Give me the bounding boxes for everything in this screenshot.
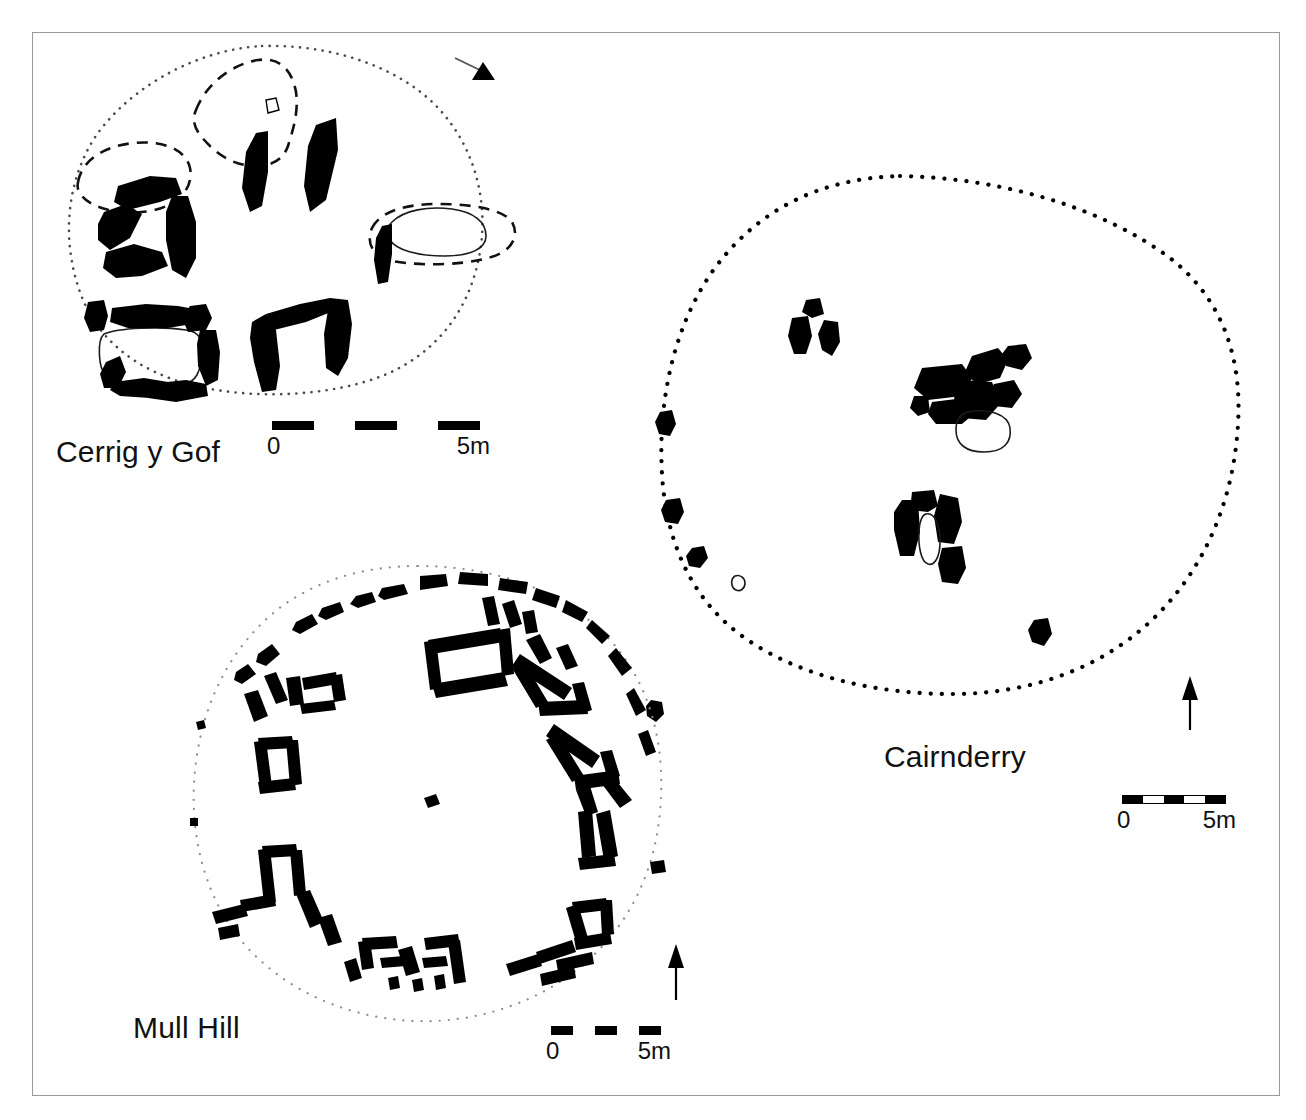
plan-mull-hill [190, 566, 684, 1021]
scalebar-min-label: 0 [1117, 806, 1130, 834]
mull-c5-slab6 [422, 956, 448, 968]
plan-cairnderry [646, 176, 1239, 730]
scalebar-segment [272, 421, 314, 430]
scalebar-max-label: 5m [1203, 806, 1236, 834]
orthostat-b1 [304, 118, 338, 212]
mull-c3-entry1 [602, 778, 632, 808]
scalebar-cerrig-y-gof: 0 5m [272, 421, 480, 458]
scalebar-bar [551, 1026, 661, 1035]
figure-root: Cerrig y Gof Cairnderry Mull Hill 0 5m 0… [0, 0, 1306, 1120]
mull-c1-slab4 [498, 628, 514, 676]
capstone-cairnderry-s [919, 514, 940, 565]
orthostat-nw2 [788, 316, 812, 354]
kerb-arc-mull-e1 [650, 860, 666, 874]
scalebar-cairnderry: 0 5m [1122, 795, 1226, 832]
mull-c7-entry2 [264, 672, 288, 704]
scalebar-segment [355, 421, 397, 430]
cairn-edge-cairnderry [661, 176, 1238, 694]
mull-c7-entry6 [300, 700, 336, 714]
mull-c4-slab3 [600, 900, 614, 936]
kerb-stone-3 [686, 546, 708, 568]
kerb-arc-mull-n5 [498, 578, 528, 594]
orthostat-nw1 [802, 298, 824, 318]
mull-c5-slab8 [388, 976, 400, 990]
scalebar-segment [1184, 795, 1205, 804]
orthostat-ne7 [954, 380, 1000, 420]
orthostat-s3 [934, 494, 962, 544]
north-arrow-head-mull [668, 944, 684, 968]
mull-c5-slab7 [380, 956, 406, 968]
scalebar-segment [573, 1026, 595, 1035]
kerb-stone-4 [646, 700, 664, 722]
orthostat-e1 [84, 300, 108, 332]
orthostat-c3 [103, 244, 168, 278]
mull-c7-entry3 [286, 676, 304, 706]
orthostat-s2 [894, 500, 920, 556]
kerb-stone-1 [655, 410, 676, 436]
scalebar-max-label: 5m [457, 432, 490, 460]
mull-central-stone [424, 794, 440, 808]
mull-c5-slab9 [412, 978, 424, 992]
scalebar-endlabels: 0 5m [272, 432, 480, 458]
orthostat-a1 [242, 131, 268, 212]
mull-c6-entry5 [218, 924, 240, 940]
kerb-arc-mull-n6 [532, 588, 560, 608]
plans-canvas [0, 0, 1306, 1120]
orthostat-s4 [938, 546, 966, 584]
mull-c6-entry4 [318, 914, 342, 946]
mull-c5-slab2 [362, 936, 398, 950]
kerb-stone-2 [661, 498, 684, 524]
kerb-arc-mull-w1 [196, 720, 206, 730]
orthostat-e4 [197, 330, 220, 386]
kerb-arc-mull-nw2 [292, 614, 318, 634]
orthostat-c4 [166, 196, 196, 278]
mull-c1-slab1 [428, 628, 504, 654]
mull-c4-entry2 [506, 954, 542, 976]
scalebar-segment [438, 421, 480, 430]
site-label-cerrig-y-gof: Cerrig y Gof [56, 435, 220, 469]
orthostat-se-outlier [1028, 618, 1052, 646]
scalebar-min-label: 0 [267, 432, 280, 460]
scalebar-min-label: 0 [546, 1037, 559, 1065]
mull-c5-slab10 [434, 974, 446, 990]
plan-cerrig-y-gof [69, 46, 515, 402]
scalebar-bar [272, 421, 480, 430]
mull-c7-entry1 [244, 690, 268, 722]
mull-c1-slab3 [432, 672, 508, 698]
kerb-arc-mull-w2 [190, 818, 198, 826]
kerb-arc-mull-nw1 [318, 602, 344, 620]
kerb-arc-mull-n7 [562, 600, 588, 622]
mull-c1-entry3 [522, 610, 538, 634]
orthostat-nw3 [818, 320, 840, 356]
scalebar-segment [595, 1026, 617, 1035]
chamber-outline-a [194, 60, 297, 166]
scalebar-mull-hill: 0 5m [551, 1026, 661, 1063]
mull-c3-entry3 [578, 810, 596, 858]
mull-c5-slab5 [448, 940, 466, 984]
scalebar-segment [1205, 795, 1226, 804]
scalebar-segment [617, 1026, 639, 1035]
mull-c2-entry1 [526, 634, 552, 664]
site-label-cairnderry: Cairnderry [884, 740, 1026, 774]
scalebar-endlabels: 0 5m [551, 1037, 661, 1063]
kerb-arc-mull-ne4 [638, 730, 656, 756]
capstone-d [388, 208, 486, 256]
scalebar-endlabels: 0 5m [1122, 806, 1226, 832]
north-arrow-head-cerrig [472, 62, 495, 80]
kerb-arc-mull-nw4 [234, 664, 256, 684]
orthostat-f3 [324, 298, 352, 376]
north-arrow-head-cairnderry [1182, 676, 1198, 700]
kerb-arc-mull-n2 [378, 584, 408, 600]
stone-small-hatched [266, 98, 279, 113]
orthostat-d1 [374, 224, 392, 284]
mull-c6-slab3 [290, 850, 306, 896]
scalebar-segment [1143, 795, 1164, 804]
scalebar-segment [1122, 795, 1143, 804]
scalebar-segment [551, 1026, 573, 1035]
kerb-arc-mull-ne1 [586, 620, 610, 644]
scalebar-segment [314, 421, 356, 430]
scalebar-segment [1164, 795, 1185, 804]
orthostat-e7 [148, 380, 208, 402]
mull-c3-entry4 [596, 810, 618, 860]
kerb-arc-mull-nw3 [256, 644, 280, 666]
